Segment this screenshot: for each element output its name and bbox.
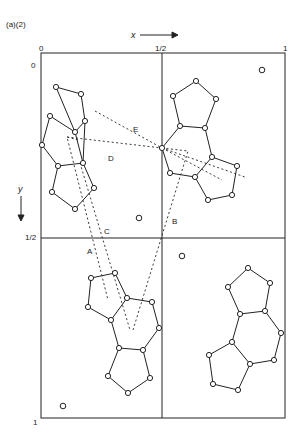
atom: [124, 295, 129, 300]
contact-label-b: B: [172, 218, 177, 226]
bond: [42, 116, 50, 145]
atom: [210, 381, 215, 386]
atom: [229, 192, 234, 197]
y-axis-label: y: [18, 185, 23, 193]
y-tick-half: 1/2: [25, 234, 36, 242]
atom: [85, 304, 90, 309]
atom: [262, 308, 267, 313]
bond: [75, 132, 83, 163]
bond: [143, 350, 150, 378]
bond: [143, 328, 159, 350]
bond: [108, 376, 128, 393]
bond: [108, 348, 119, 376]
contact-label-d: D: [108, 155, 114, 163]
bond: [250, 360, 274, 364]
atom: [278, 330, 283, 335]
atom: [53, 84, 58, 89]
contact-label-a: A: [87, 248, 92, 256]
bond: [52, 192, 75, 209]
x-tick-1: 1: [283, 45, 287, 53]
bond: [205, 128, 212, 157]
bond: [83, 121, 85, 163]
atom: [193, 78, 198, 83]
atom: [72, 129, 77, 134]
bond: [180, 126, 205, 128]
atom: [72, 206, 77, 211]
atom: [235, 387, 240, 392]
bond: [265, 283, 270, 311]
isolated-atom: [60, 403, 66, 409]
bond: [81, 94, 85, 121]
atom: [105, 373, 110, 378]
atom: [112, 270, 117, 275]
x-tick-half: 1/2: [155, 45, 166, 53]
atom: [80, 160, 85, 165]
y-tick-0: 0: [31, 62, 35, 70]
bond: [213, 384, 238, 390]
atom: [159, 145, 164, 150]
atom: [39, 142, 44, 147]
atom: [47, 113, 52, 118]
bond: [209, 355, 213, 384]
bond: [232, 342, 250, 364]
atom: [78, 91, 83, 96]
contact-line-e: [95, 111, 222, 180]
contact-line-extra: [162, 148, 245, 177]
atom: [209, 154, 214, 159]
isolated-atom: [259, 67, 265, 73]
bond: [173, 96, 180, 126]
contact-line-d: [67, 137, 162, 148]
x-tick-0: 0: [39, 45, 43, 53]
atom: [91, 185, 96, 190]
molecule-lower-right: [209, 268, 281, 390]
atom: [247, 361, 252, 366]
atom: [149, 299, 154, 304]
atom: [202, 125, 207, 130]
atom: [206, 352, 211, 357]
crystal-packing-diagram: [0, 0, 301, 447]
atom: [205, 197, 210, 202]
y-axis-arrow: [18, 196, 24, 221]
contact-line-b: [133, 148, 188, 330]
atom: [49, 189, 54, 194]
atom: [167, 170, 172, 175]
atom: [234, 163, 239, 168]
bond: [127, 298, 152, 302]
bond: [240, 311, 265, 314]
isolated-atom: [136, 215, 142, 221]
bond: [265, 311, 281, 333]
bond: [170, 173, 195, 177]
bond: [205, 99, 216, 128]
bond: [88, 307, 111, 320]
bond: [56, 87, 81, 94]
bond: [152, 302, 159, 328]
bond: [228, 287, 240, 314]
atom: [213, 96, 218, 101]
atom: [177, 123, 182, 128]
bond: [232, 314, 240, 342]
atom: [192, 174, 197, 179]
bond: [232, 166, 237, 195]
atom: [88, 275, 93, 280]
bond: [248, 268, 270, 283]
bond: [52, 166, 58, 192]
bond: [274, 333, 281, 360]
bond: [209, 342, 232, 355]
bond: [111, 298, 127, 320]
atom: [116, 345, 121, 350]
atom: [271, 357, 276, 362]
atom: [229, 339, 234, 344]
contact-lines: [67, 111, 245, 330]
panel-label: (a)(2): [6, 21, 26, 29]
atom: [147, 375, 152, 380]
atom: [156, 325, 161, 330]
bond: [238, 364, 250, 390]
atom: [140, 347, 145, 352]
x-axis-label: x: [131, 31, 136, 39]
bond: [195, 177, 208, 200]
atom: [170, 93, 175, 98]
bond: [228, 268, 248, 287]
x-axis-arrow: [140, 32, 178, 38]
bond: [162, 126, 180, 148]
atom: [55, 163, 60, 168]
